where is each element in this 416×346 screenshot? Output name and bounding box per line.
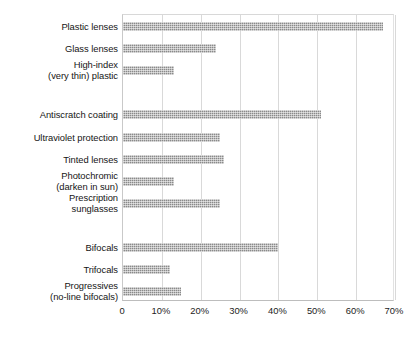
category-label: Tinted lenses: [0, 154, 118, 165]
bar: [123, 177, 174, 186]
category-rows: Plastic lensesGlass lensesHigh-index (ve…: [0, 14, 416, 301]
x-tick-label: 0: [100, 305, 144, 317]
chart-row: Photochromic (darken in sun): [0, 172, 416, 194]
chart-row: Antiscratch coating: [0, 105, 416, 127]
category-label: Progressives (no-line bifocals): [0, 280, 118, 302]
category-label: Bifocals: [0, 242, 118, 253]
category-label: Antiscratch coating: [0, 109, 118, 120]
bar: [123, 265, 170, 274]
x-tick-label: 50%: [294, 305, 338, 317]
x-tick-label: 20%: [178, 305, 222, 317]
bar: [123, 66, 174, 75]
chart-row: Glass lenses: [0, 39, 416, 61]
chart-row: Trifocals: [0, 260, 416, 282]
bar: [123, 243, 278, 252]
chart-row: Prescription sunglasses: [0, 194, 416, 216]
x-tick-label: 30%: [217, 305, 261, 317]
bar: [123, 199, 220, 208]
bar-chart: Plastic lensesGlass lensesHigh-index (ve…: [0, 0, 416, 346]
x-tick-label: 10%: [139, 305, 183, 317]
category-label: Photochromic (darken in sun): [0, 170, 118, 192]
bar: [123, 44, 216, 53]
category-label: Glass lenses: [0, 43, 118, 54]
chart-row: Progressives (no-line bifocals): [0, 282, 416, 304]
x-tick-label: 70%: [372, 305, 416, 317]
x-axis-ticks: 010%20%30%40%50%60%70%: [0, 305, 416, 321]
spacer-row: [0, 83, 416, 105]
bar: [123, 287, 181, 296]
category-label: Trifocals: [0, 264, 118, 275]
x-tick-label: 40%: [255, 305, 299, 317]
spacer-row: [0, 216, 416, 238]
chart-row: Bifocals: [0, 238, 416, 260]
category-label: High-index (very thin) plastic: [0, 59, 118, 81]
category-label: Prescription sunglasses: [0, 192, 118, 214]
chart-row: High-index (very thin) plastic: [0, 61, 416, 83]
bar: [123, 110, 321, 119]
category-label: Ultraviolet protection: [0, 132, 118, 143]
chart-row: Plastic lenses: [0, 17, 416, 39]
x-tick-label: 60%: [333, 305, 377, 317]
bar: [123, 155, 224, 164]
bar: [123, 22, 383, 31]
chart-row: Tinted lenses: [0, 150, 416, 172]
chart-row: Ultraviolet protection: [0, 128, 416, 150]
category-label: Plastic lenses: [0, 21, 118, 32]
bar: [123, 133, 220, 142]
